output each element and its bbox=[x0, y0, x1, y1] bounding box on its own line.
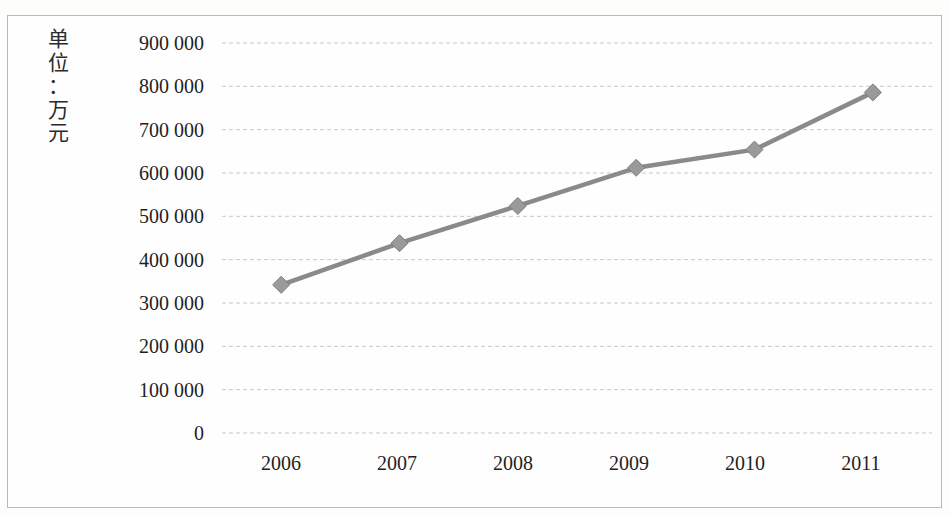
line-chart: 900 000 800 000 700 000 600 000 500 000 … bbox=[0, 0, 950, 515]
x-axis-tick: 2006 bbox=[236, 452, 326, 475]
x-axis-tick: 2009 bbox=[584, 452, 674, 475]
x-axis-tick: 2010 bbox=[700, 452, 790, 475]
x-axis-tick: 2007 bbox=[352, 452, 442, 475]
x-axis-tick: 2011 bbox=[816, 452, 906, 475]
scanned-page: 单 位 ： 万 元 900 000 800 000 700 000 600 00… bbox=[0, 0, 950, 515]
x-axis-tick: 2008 bbox=[468, 452, 558, 475]
x-axis-tick-labels: 2006 2007 2008 2009 2010 2011 bbox=[0, 0, 950, 515]
